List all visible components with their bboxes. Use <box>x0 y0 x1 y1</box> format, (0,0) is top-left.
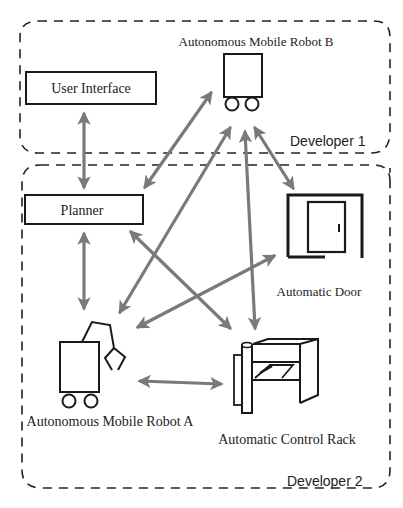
node-automatic-control-rack: Automatic Control Rack <box>218 339 356 447</box>
node-planner-label: Planner <box>61 203 104 218</box>
node-robot-b-label: Autonomous Mobile Robot B <box>179 34 334 49</box>
node-automatic-control-rack-label: Automatic Control Rack <box>218 432 356 447</box>
edge-planner-rack <box>131 232 230 328</box>
node-planner: Planner <box>25 195 143 224</box>
edge-robot-b-rack <box>245 132 255 328</box>
node-user-interface: User Interface <box>26 72 156 104</box>
node-robot-b: Autonomous Mobile Robot B <box>179 34 334 111</box>
node-automatic-door-label: Automatic Door <box>277 284 363 299</box>
edge-robot-b-door <box>255 128 293 188</box>
edge-robot-a-rack <box>140 381 221 384</box>
edge-robot-b-planner <box>145 93 211 187</box>
node-user-interface-label: User Interface <box>51 81 131 96</box>
group-label-developer-1: Developer 1 <box>290 133 366 149</box>
system-architecture-diagram: Developer 1 Developer 2 User Interface A… <box>0 0 403 508</box>
mobile-robot-arm-icon <box>60 322 125 408</box>
group-label-developer-2: Developer 2 <box>287 473 363 489</box>
node-automatic-door: Automatic Door <box>277 195 363 299</box>
control-rack-icon <box>234 339 318 413</box>
door-icon <box>288 195 362 258</box>
mobile-robot-icon <box>224 54 262 111</box>
node-robot-a-label: Autonomous Mobile Robot A <box>27 414 195 429</box>
node-robot-a: Autonomous Mobile Robot A <box>27 322 195 429</box>
